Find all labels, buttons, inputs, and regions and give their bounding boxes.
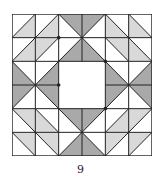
vertex-dot bbox=[104, 60, 108, 64]
vertex-dot bbox=[104, 107, 108, 111]
figure-caption: 9 bbox=[0, 163, 161, 176]
quilt-block-diagram bbox=[12, 14, 152, 156]
vertex-dot bbox=[57, 36, 61, 40]
vertex-dot bbox=[57, 83, 61, 87]
